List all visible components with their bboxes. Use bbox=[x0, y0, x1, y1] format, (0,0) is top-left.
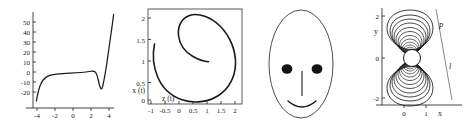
panel-2-xtick-m0p5: -0.5 bbox=[159, 107, 171, 115]
panel-1-ytick-20: 20 bbox=[23, 49, 31, 57]
panel-4-svg: 2 0 -2 0 1 y x bbox=[354, 0, 470, 131]
panel-1-y-ticks bbox=[33, 22, 36, 92]
panel-1-xtick-m2: -2 bbox=[52, 112, 58, 120]
panel-2-svg: 2 1.5 1 0.5 0 -1 -0.5 0 0.5 1 1.5 2 x (t… bbox=[118, 0, 246, 131]
panel-4-ytick-0: 0 bbox=[376, 55, 380, 63]
panel-2-ytick-1p5: 1.5 bbox=[136, 37, 145, 45]
panel-4-dipole-field: 2 0 -2 0 1 y x bbox=[354, 0, 470, 131]
head-ellipse bbox=[269, 10, 333, 118]
panel-3-face-schematic bbox=[248, 0, 354, 131]
panel-1-xtick-2: 2 bbox=[89, 112, 93, 120]
panel-1-ytick-m20: -20 bbox=[21, 89, 31, 97]
panel-2-xtick-m1: -1 bbox=[148, 107, 154, 115]
panel-1-ytick-50: 50 bbox=[23, 19, 31, 27]
panel-1-ytick-10: 10 bbox=[23, 59, 31, 67]
panel-4-x-axis-label: x bbox=[438, 109, 442, 118]
panel-2-ytick-2: 2 bbox=[142, 15, 146, 23]
panel-2-xtick-2: 2 bbox=[233, 107, 237, 115]
panel-2-xtick-1: 1 bbox=[205, 107, 209, 115]
panel-2-frame bbox=[148, 9, 242, 104]
panel-4-annotation-l: l bbox=[449, 62, 452, 71]
panel-2-phase-portrait: 2 1.5 1 0.5 0 -1 -0.5 0 0.5 1 1.5 2 x (t… bbox=[118, 0, 246, 131]
panel-4-xtick-1: 1 bbox=[424, 110, 428, 118]
right-eye bbox=[312, 64, 323, 74]
panel-4-y-axis-label: y bbox=[374, 27, 378, 36]
left-eye bbox=[282, 64, 293, 74]
panel-1-ytick-30: 30 bbox=[23, 39, 31, 47]
panel-4-ytick-2: 2 bbox=[376, 13, 380, 21]
panel-4-source-circle bbox=[404, 50, 421, 67]
panel-1-xtick-m4: -4 bbox=[34, 112, 40, 120]
panel-4-y-ticks bbox=[382, 16, 385, 98]
panel-1-xtick-0: 0 bbox=[71, 112, 75, 120]
panel-1-ytick-0: 0 bbox=[27, 69, 31, 77]
panel-2-xtick-0p5: 0.5 bbox=[189, 107, 198, 115]
panel-2-xtick-1p5: 1.5 bbox=[217, 107, 226, 115]
panel-1-svg: 50 40 30 20 10 0 -10 -20 -4 -2 0 2 4 bbox=[0, 0, 120, 131]
panel-4-xtick-0: 0 bbox=[402, 110, 406, 118]
panel-4-annotation-P: P bbox=[438, 22, 444, 31]
panel-1-xtick-4: 4 bbox=[107, 112, 111, 120]
panel-1-curve bbox=[36, 15, 113, 102]
panel-2-y-axis-label: x (t) bbox=[132, 86, 145, 95]
mouth-arc bbox=[288, 101, 316, 107]
panel-1-ytick-40: 40 bbox=[23, 29, 31, 37]
figure-strip: 50 40 30 20 10 0 -10 -20 -4 -2 0 2 4 bbox=[0, 0, 470, 131]
panel-1-ytick-m10: -10 bbox=[21, 79, 31, 87]
panel-2-ytick-1: 1 bbox=[142, 58, 146, 66]
panel-1-line-chart: 50 40 30 20 10 0 -10 -20 -4 -2 0 2 4 bbox=[0, 0, 120, 131]
panel-1-x-ticks bbox=[37, 108, 109, 111]
panel-2-trajectory bbox=[153, 15, 235, 102]
panel-2-ytick-0: 0 bbox=[142, 97, 146, 105]
panel-4-ytick-m2: -2 bbox=[373, 95, 379, 103]
panel-2-xtick-0: 0 bbox=[177, 107, 181, 115]
panel-3-svg bbox=[248, 0, 354, 131]
